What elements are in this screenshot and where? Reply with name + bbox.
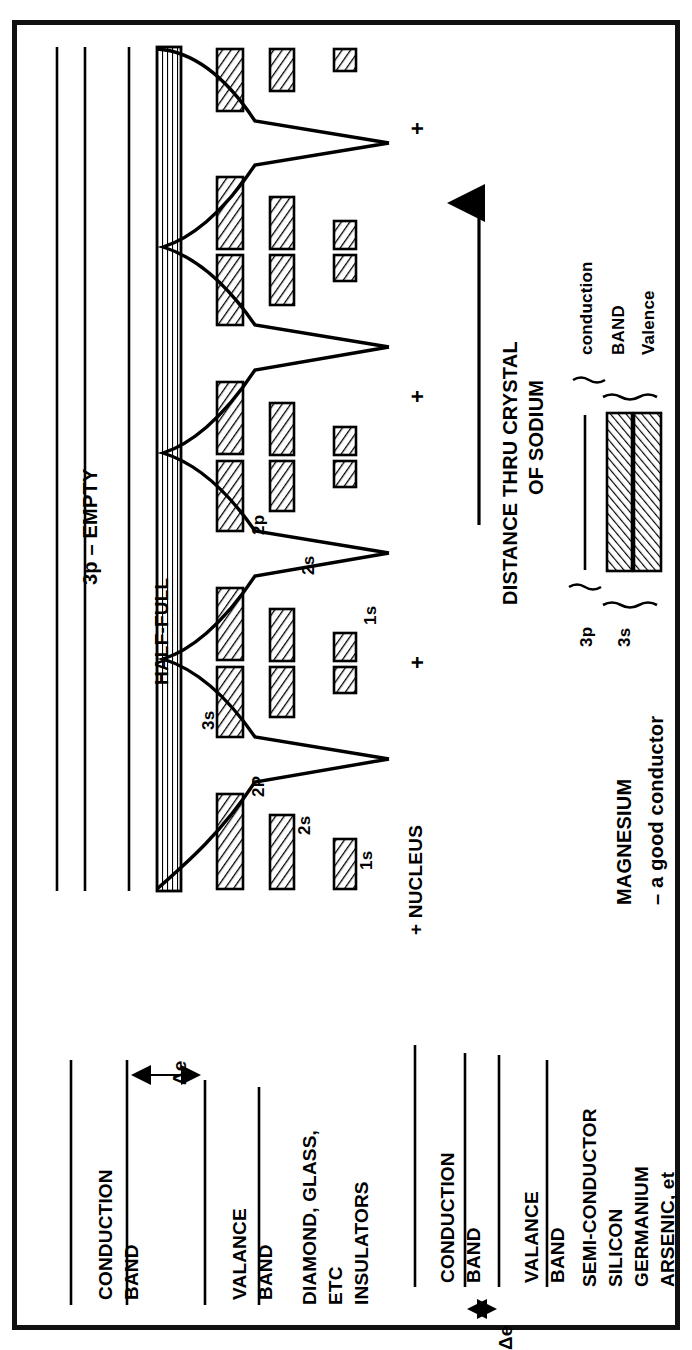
magnesium-label-3s: 3s — [615, 628, 635, 647]
well-label-3s: 3s — [199, 711, 219, 730]
diagram-graphics — [17, 25, 675, 1325]
well-label-1s-b: 1s — [361, 606, 381, 625]
nucleus-plus-3: + — [405, 656, 431, 669]
semiconductor-caption-line3: GERMANIUM — [631, 1166, 653, 1287]
semiconductor-caption-line4: ARSENIC, et — [657, 1172, 679, 1287]
band-3s-halffull — [157, 47, 181, 891]
well-label-1s-a: 1s — [357, 851, 377, 870]
nucleus-plus-1: + — [405, 122, 431, 135]
well-label-2s-a: 2s — [295, 816, 315, 835]
well-label-2p: 2p — [249, 515, 269, 535]
band-1s-segments — [334, 49, 356, 889]
magnesium-label-3p: 3p — [577, 627, 597, 647]
nucleus-label: + NUCLEUS — [405, 825, 427, 935]
semiconductor-gap-label: Δe — [495, 1325, 517, 1350]
well-label-2P: 2P — [249, 776, 269, 797]
insulator-gap-label: Δe — [169, 1060, 191, 1085]
figure-frame: 3p – EMPTY HALF-FULL 3s 2P 2s 1s 2p 2s 1… — [12, 20, 680, 1330]
distance-axis-label-line1: DISTANCE THRU CRYSTAL — [499, 341, 522, 605]
insulator-conduction-line1: CONDUCTION — [95, 1169, 117, 1300]
semiconductor-conduction-line2: BAND — [463, 1227, 485, 1283]
label-half-full: HALF-FULL — [151, 578, 173, 685]
magnesium-label-band: BAND — [609, 305, 629, 355]
semiconductor-caption-line2: SILICON — [605, 1209, 627, 1287]
insulator-conduction-line2: BAND — [121, 1244, 143, 1300]
magnesium-label-conduction: conduction — [577, 261, 597, 355]
magnesium-label-valence: Valence — [639, 290, 659, 355]
nucleus-plus-2: + — [405, 390, 431, 403]
band-2p-segments — [217, 49, 243, 889]
insulator-caption-line1: DIAMOND, GLASS, — [299, 1130, 321, 1305]
band-2s-segments — [270, 49, 294, 889]
magnesium-subtitle: – a good conductor — [645, 716, 668, 905]
semiconductor-valence-line2: BAND — [547, 1227, 569, 1283]
label-3p-empty: 3p – EMPTY — [79, 469, 102, 585]
semiconductor-conduction-line1: CONDUCTION — [437, 1152, 459, 1283]
magnesium-title: MAGNESIUM — [613, 779, 636, 905]
magnesium-bands — [585, 413, 661, 571]
insulator-valence-line2: BAND — [255, 1244, 277, 1300]
semiconductor-valence-line1: VALANCE — [521, 1191, 543, 1283]
distance-axis-label-line2: OF SODIUM — [525, 380, 548, 495]
well-label-2s-b: 2s — [299, 556, 319, 575]
semiconductor-caption-line1: SEMI-CONDUCTOR — [579, 1108, 601, 1287]
insulator-caption-line3: INSULATORS — [351, 1181, 373, 1305]
insulator-caption-line2: ETC — [325, 1266, 347, 1305]
insulator-valence-line1: VALANCE — [229, 1208, 251, 1300]
